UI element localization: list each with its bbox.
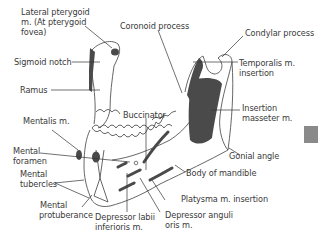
label-depressor-anguli: Depressor anguli oris m. <box>165 210 233 230</box>
coronoid-dark-strip <box>89 48 95 92</box>
label-insertion-masseter: Insertion masseter m. <box>242 103 292 123</box>
label-lateral-pterygoid: Lateral pterygoid m. (At pterygoid fovea… <box>21 7 90 37</box>
label-condylar-process: Condylar process <box>245 28 314 38</box>
label-ramus: Ramus <box>20 85 47 95</box>
label-mentalis: Mentalis m. <box>23 116 69 126</box>
buccinator-strip <box>144 132 168 162</box>
depressor-labii-strip <box>118 163 126 167</box>
pterygoid-fovea-spot <box>111 49 119 56</box>
mentalis-spot-left <box>76 150 82 160</box>
masseter-insertion <box>189 78 222 144</box>
label-mental-protuberance: Mental protuberance <box>39 200 93 220</box>
label-sigmoid-notch: Sigmoid notch <box>14 57 72 67</box>
label-coronoid-process: Coronoid process <box>120 21 189 31</box>
depressor-anguli-strip-1 <box>128 170 140 176</box>
label-temporalis: Temporalis m. insertion <box>239 58 295 78</box>
label-mental-foramen: Mental foramen <box>13 146 47 166</box>
label-body-of-mandible: Body of mandible <box>186 168 256 178</box>
platysma-strip <box>150 168 172 180</box>
label-gonial-angle: Gonial angle <box>229 151 279 161</box>
mentalis-spot-right <box>92 152 100 163</box>
side-tab-marker <box>304 126 318 143</box>
label-platysma: Platysma m. insertion <box>181 194 268 204</box>
label-depressor-labii: Depressor labii inferioris m. <box>95 212 155 232</box>
label-mental-tubercles: Mental tubercles <box>20 169 57 189</box>
teeth-row <box>92 124 172 128</box>
label-buccinator: Buccinator <box>123 110 166 120</box>
